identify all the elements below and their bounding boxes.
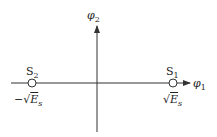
y-axis-label: φ2 xyxy=(87,10,100,24)
point-s2 xyxy=(28,79,36,87)
point-s1-value: √Es xyxy=(163,94,182,108)
x-axis-label: φ1 xyxy=(193,78,206,92)
point-s1-label: S1 xyxy=(166,66,179,80)
point-s2-label: S2 xyxy=(26,66,39,80)
point-s1 xyxy=(169,79,177,87)
point-s2-value: −√Es xyxy=(14,94,42,108)
